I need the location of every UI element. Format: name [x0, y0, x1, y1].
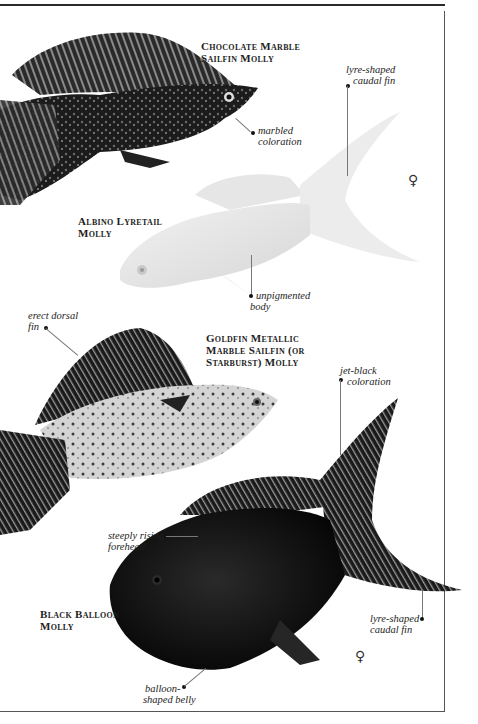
annotation-line: shaped belly	[143, 694, 196, 705]
annotation-marbled-coloration: marbled coloration	[258, 125, 302, 147]
annotation-line: forehead	[108, 541, 164, 552]
annotation-line: caudal fin	[345, 75, 395, 86]
annotation-line: fin	[28, 321, 78, 332]
field-guide-page: Chocolate Marble Sailfin Molly Albino Ly…	[0, 0, 478, 724]
leader-line	[166, 536, 198, 537]
species-title-line: Marble Sailfin (or	[206, 344, 305, 356]
leader-dot	[420, 617, 424, 621]
species-title-line: Sailfin Molly	[201, 52, 300, 64]
annotation-line: coloration	[340, 376, 391, 387]
species-title-goldfin-metallic: Goldfin Metallic Marble Sailfin (or Star…	[206, 332, 305, 368]
annotation-line: caudal fin	[370, 624, 419, 635]
leader-line	[347, 86, 348, 176]
species-title-albino-lyretail: Albino Lyretail Molly	[78, 215, 162, 239]
species-title-black-balloon: Black Balloon Molly	[40, 608, 119, 632]
species-title-line: Molly	[40, 620, 119, 632]
annotation-line: body	[250, 301, 310, 312]
annotation-lyre-shaped-caudal-fin: lyre-shaped caudal fin	[345, 64, 395, 86]
species-title-line: Goldfin Metallic	[206, 332, 305, 344]
annotation-erect-dorsal-fin: erect dorsal fin	[28, 310, 78, 332]
species-title-line: Chocolate Marble	[201, 40, 300, 52]
species-title-line: Starburst) Molly	[206, 356, 305, 368]
annotation-balloon-shaped-belly: balloon- shaped belly	[143, 683, 196, 705]
annotation-line: coloration	[258, 136, 302, 147]
annotation-jet-black-coloration: jet-black coloration	[340, 365, 391, 387]
female-symbol-icon: ♀	[355, 648, 365, 664]
species-title-chocolate-marble: Chocolate Marble Sailfin Molly	[201, 40, 300, 64]
annotation-unpigmented-body: unpigmented body	[256, 290, 310, 312]
annotation-lyre-shaped-caudal-fin-black: lyre-shaped caudal fin	[370, 613, 419, 635]
annotation-steeply-rising-forehead: steeply rising forehead	[108, 530, 164, 552]
annotation-line: balloon-	[143, 683, 196, 694]
species-title-line: Black Balloon	[40, 608, 119, 620]
annotation-line: lyre-shaped	[370, 613, 419, 624]
species-title-line: Molly	[78, 227, 162, 239]
leader-line	[422, 590, 423, 618]
leader-dot	[251, 131, 255, 135]
annotation-line: erect dorsal	[28, 310, 78, 321]
species-title-line: Albino Lyretail	[78, 215, 162, 227]
leader-line	[251, 255, 252, 295]
annotation-line: steeply rising	[108, 530, 164, 541]
annotation-line: unpigmented	[256, 290, 310, 301]
annotation-line: marbled	[258, 125, 302, 136]
female-symbol-icon: ♀	[408, 172, 418, 188]
leader-dot	[249, 294, 253, 298]
leader-line	[340, 380, 341, 455]
annotation-line: lyre-shaped	[345, 64, 395, 75]
annotation-line: jet-black	[340, 365, 391, 376]
